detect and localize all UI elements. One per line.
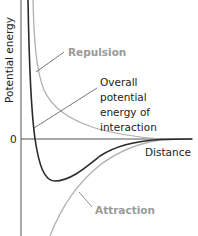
zero-tick-label: 0 xyxy=(10,133,17,145)
repulsion-label: Repulsion xyxy=(68,46,126,58)
overall-label-line-2: potential xyxy=(100,91,147,103)
repulsion-leader xyxy=(36,52,64,72)
overall-label-line-1: Overall xyxy=(100,76,138,88)
potential-energy-chart: Potential energy 0 Distance Repulsion At… xyxy=(0,0,198,236)
chart-svg: Potential energy 0 Distance Repulsion At… xyxy=(0,0,198,236)
overall-label-line-3: energy of xyxy=(100,106,150,118)
overall-leader xyxy=(34,88,97,128)
y-axis-label: Potential energy xyxy=(3,17,15,103)
repulsion-curve xyxy=(33,0,160,139)
x-axis-label: Distance xyxy=(145,146,191,158)
attraction-leader xyxy=(79,192,92,207)
attraction-label: Attraction xyxy=(95,204,155,216)
overall-label-line-4: interaction xyxy=(100,121,157,133)
